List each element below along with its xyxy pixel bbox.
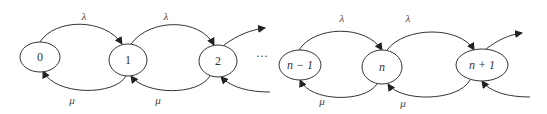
node-0-label: 0 xyxy=(37,50,43,64)
edge-lambda-np1-out xyxy=(486,33,522,49)
label-lambda-0-1: λ xyxy=(81,10,87,22)
node-n-minus-1-label: n − 1 xyxy=(287,58,313,72)
label-lambda-nm1-n: λ xyxy=(339,12,345,24)
edge-lambda-0-1 xyxy=(40,24,122,44)
node-1-label: 1 xyxy=(125,53,131,67)
edge-lambda-n-np1 xyxy=(387,32,474,50)
edge-mu-1-0 xyxy=(43,71,126,90)
label-lambda-n-np1: λ xyxy=(405,12,411,24)
node-n-minus-1: n − 1 xyxy=(279,50,321,80)
edge-mu-in-np1 xyxy=(482,81,530,97)
ellipsis: ··· xyxy=(256,49,268,63)
node-n-label: n xyxy=(379,60,385,74)
edge-mu-n-nm1 xyxy=(300,80,377,97)
edge-mu-in-2 xyxy=(221,77,270,92)
edge-mu-np1-n xyxy=(388,80,470,97)
edge-lambda-2-out xyxy=(224,28,265,45)
node-2-label: 2 xyxy=(215,54,221,68)
node-0: 0 xyxy=(20,42,60,72)
label-lambda-1-2: λ xyxy=(163,10,169,22)
edge-lambda-nm1-n xyxy=(299,31,382,50)
edge-lambda-1-2 xyxy=(131,25,214,45)
node-2: 2 xyxy=(199,45,237,77)
node-n: n xyxy=(362,50,402,84)
label-mu-np1-n: μ xyxy=(399,97,406,109)
label-mu-n-nm1: μ xyxy=(318,95,325,107)
edge-mu-2-1 xyxy=(131,76,210,91)
label-mu-1-0: μ xyxy=(68,94,75,106)
node-n-plus-1-label: n + 1 xyxy=(469,58,495,72)
node-n-plus-1: n + 1 xyxy=(456,49,508,81)
state-transition-diagram: 0 1 2 ··· n − 1 n n + 1 λ λ λ λ μ μ μ μ xyxy=(0,0,547,114)
label-mu-2-1: μ xyxy=(154,94,161,106)
node-1: 1 xyxy=(109,44,147,76)
